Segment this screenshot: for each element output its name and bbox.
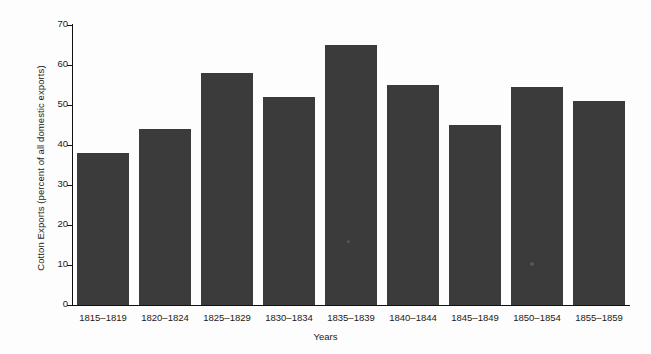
bar	[511, 87, 563, 305]
x-axis-tick-label: 1840–1844	[382, 312, 444, 323]
bar	[263, 97, 315, 305]
bar	[201, 73, 253, 305]
y-axis-tick-label: 40	[57, 138, 68, 149]
y-axis-tick-label: 50	[57, 98, 68, 109]
x-axis-tick-label: 1820–1824	[134, 312, 196, 323]
bar	[573, 101, 625, 305]
x-axis-tick-label: 1850–1854	[506, 312, 568, 323]
scan-artifact-speck	[347, 240, 350, 243]
x-axis-title: Years	[0, 331, 651, 342]
bar	[325, 45, 377, 305]
y-axis-tick-label: 0	[63, 298, 68, 309]
scan-artifact-speck	[530, 262, 534, 266]
bar-chart-figure: Cotton Exports (percent of all domestic …	[0, 0, 651, 354]
y-axis-tick-label: 30	[57, 178, 68, 189]
x-axis-tick-label: 1825–1829	[196, 312, 258, 323]
bar	[449, 125, 501, 305]
x-axis-tick-label: 1845–1849	[444, 312, 506, 323]
bar	[387, 85, 439, 305]
y-axis-tick-label: 10	[57, 258, 68, 269]
y-axis-line	[72, 24, 73, 306]
plot-area: 010203040506070 1815–18191820–18241825–1…	[72, 25, 630, 305]
y-axis-tick-label: 20	[57, 218, 68, 229]
bar	[139, 129, 191, 305]
y-axis-tick-label: 70	[57, 18, 68, 29]
y-axis-title: Cotton Exports (percent of all domestic …	[33, 18, 49, 318]
x-axis-tick-label: 1830–1834	[258, 312, 320, 323]
x-axis-tick-label: 1835–1839	[320, 312, 382, 323]
x-axis-line	[72, 305, 630, 306]
x-axis-tick-label: 1815–1819	[72, 312, 134, 323]
y-axis-tick-label: 60	[57, 58, 68, 69]
bar	[77, 153, 129, 305]
x-axis-tick-label: 1855–1859	[568, 312, 630, 323]
